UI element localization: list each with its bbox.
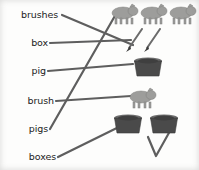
pig-icon	[112, 4, 138, 24]
connector-box[interactable]	[50, 40, 131, 43]
picture-one-box[interactable]	[132, 56, 164, 80]
connector-pigs[interactable]	[50, 14, 116, 129]
word-text: brushes	[21, 9, 58, 20]
box-icon	[134, 58, 162, 77]
word-label-box[interactable]: box	[31, 37, 48, 48]
picture-two-brushes[interactable]	[122, 28, 166, 54]
picture-one-pig[interactable]	[128, 87, 160, 113]
word-text: pigs	[29, 123, 48, 134]
brush-icon	[144, 29, 160, 52]
word-label-brush[interactable]: brush	[28, 95, 54, 106]
pig-icon	[170, 4, 196, 24]
picture-two-boxes[interactable]	[112, 113, 182, 137]
worksheet-canvas: brushes box pig brush pigs boxes	[0, 0, 199, 170]
picture-three-pigs[interactable]	[110, 3, 198, 29]
word-text: pig	[32, 65, 46, 76]
word-label-pig[interactable]: pig	[32, 65, 46, 76]
connector-pig[interactable]	[48, 64, 133, 71]
pig-icon	[141, 4, 167, 24]
word-text: brush	[28, 95, 54, 106]
box-icon	[150, 115, 178, 134]
brush-icon	[126, 29, 142, 52]
word-text: boxes	[29, 151, 56, 162]
word-text: box	[31, 37, 48, 48]
pig-icon	[130, 88, 156, 108]
word-label-boxes[interactable]: boxes	[29, 151, 56, 162]
box-icon	[114, 115, 142, 134]
word-label-brushes[interactable]: brushes	[21, 9, 58, 20]
word-label-pigs[interactable]: pigs	[29, 123, 48, 134]
